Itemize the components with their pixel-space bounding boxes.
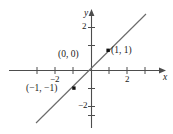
y-tick-label-neg2: −2 [78,101,88,110]
coordinate-plane-svg [0,0,173,134]
x-tick-label-2: 2 [125,75,130,84]
graph-figure: y x 2 −2 −2 2 (0, 0) (1, 1) (−1, −1) [0,0,173,134]
x-axis-label: x [163,73,167,83]
point-label-one-one: (1, 1) [111,46,132,56]
x-axis [9,67,166,74]
point-label-neg-one-neg-one: (−1, −1) [26,84,57,94]
y-axis-label: y [84,9,88,19]
y-tick-label-2: 2 [82,22,87,31]
point-label-origin: (0, 0) [58,50,79,60]
